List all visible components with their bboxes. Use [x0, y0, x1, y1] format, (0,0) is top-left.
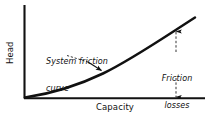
friction-losses-callout-line1: Friction	[152, 75, 202, 84]
y-axis-label: Head	[6, 33, 16, 73]
friction-losses-callout-line2: losses	[152, 102, 202, 111]
system-friction-curve-callout-line2: curve	[46, 85, 108, 94]
system-friction-curve-figure: Head Capacity System friction curve Fric…	[0, 0, 209, 124]
friction-losses-callout: Friction losses	[152, 57, 202, 124]
system-friction-curve-callout-line1: System friction	[46, 58, 108, 67]
system-friction-curve-callout: System friction curve	[46, 40, 108, 112]
